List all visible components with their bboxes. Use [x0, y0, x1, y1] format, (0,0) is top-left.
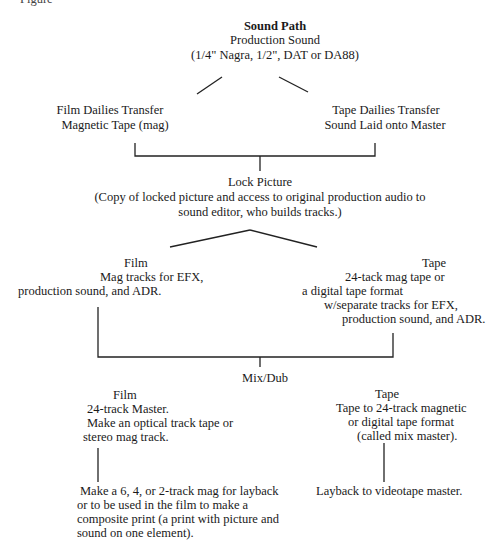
output-film-line1: Make a 6, 4, or 2-track mag for layback	[80, 484, 279, 498]
bracket-dailies-merge	[135, 143, 375, 156]
connector-root-to-tape-dailies	[279, 77, 308, 92]
mix-film-line3: stereo mag track.	[83, 430, 169, 444]
edit-film-line2: production sound, and ADR.	[18, 284, 161, 298]
film-dailies-line1: Film Dailies Transfer	[25, 103, 195, 117]
mix-film-title: Film	[113, 388, 137, 402]
mix-dub-label: Mix/Dub	[215, 371, 315, 385]
output-film-line2: or to be used in the film to make a	[77, 498, 248, 512]
edit-tape-line2: a digital tape format	[302, 284, 403, 298]
mix-tape-title: Tape	[375, 387, 399, 401]
lock-picture-detail-line1: (Copy of locked picture and access to or…	[90, 190, 430, 204]
film-dailies-line2: Magnetic Tape (mag)	[0, 118, 230, 132]
mix-film-line1: 24-track Master.	[87, 402, 169, 416]
mix-tape-line1: Tape to 24-track magnetic	[336, 401, 467, 415]
lock-picture-label: Lock Picture	[160, 175, 360, 189]
tape-dailies-line2: Sound Laid onto Master	[290, 118, 480, 132]
edit-tape-line1: 24-tack mag tape or	[345, 270, 445, 284]
connector-lock-to-tape	[250, 230, 317, 247]
diagram-title: Sound Path	[190, 19, 360, 33]
root-node-detail: (1/4" Nagra, 1/2", DAT or DA88)	[160, 48, 390, 62]
mix-film-line2: Make an optical track tape or	[87, 416, 233, 430]
edit-film-line1: Mag tracks for EFX,	[100, 270, 203, 284]
mix-tape-line3: (called mix master).	[357, 429, 457, 443]
edit-tape-line3: w/separate tracks for EFX,	[324, 298, 458, 312]
connector-lock-to-film	[170, 230, 250, 247]
output-film-line4: sound on one element).	[77, 526, 194, 540]
lock-picture-detail-line2: sound editor, who builds tracks.)	[130, 205, 390, 219]
output-tape-line1: Layback to videotape master.	[316, 484, 462, 498]
root-node-label: Production Sound	[190, 33, 360, 47]
edit-film-title: Film	[124, 256, 148, 270]
output-film-line3: composite print (a print with picture an…	[77, 512, 279, 526]
caption-fragment: Figure	[20, 0, 53, 7]
mix-tape-line2: or digital tape format	[348, 415, 454, 429]
connector-root-to-film-dailies	[197, 77, 222, 94]
edit-tape-line4: production sound, and ADR.	[342, 312, 485, 326]
tape-dailies-line1: Tape Dailies Transfer	[296, 103, 476, 117]
edit-tape-title: Tape	[422, 256, 446, 270]
